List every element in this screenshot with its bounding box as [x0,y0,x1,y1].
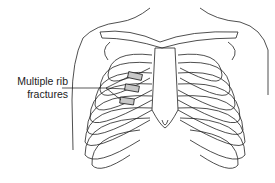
rib-fracture-diagram: Multiple rib fractures [0,0,275,183]
fracture-highlights [120,72,143,105]
ribcage-illustration [0,0,275,183]
left-ribs [85,54,152,168]
right-ribs [178,54,245,168]
